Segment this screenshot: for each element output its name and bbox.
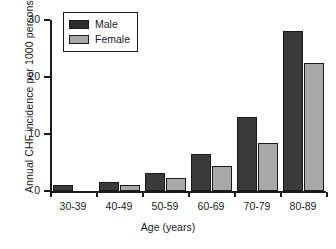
x-tick-1	[96, 192, 98, 197]
x-tick-5	[280, 192, 282, 197]
legend-label-female: Female	[95, 34, 130, 45]
y-tick-label-10: 10	[14, 128, 40, 138]
x-tick-3	[188, 192, 190, 197]
bar-male-40-49	[99, 182, 119, 191]
bar-male-60-69	[191, 154, 211, 191]
x-axis-title: Age (years)	[0, 221, 336, 233]
x-tick-label-80-89: 80-89	[273, 200, 333, 212]
legend-item-female: Female	[69, 32, 130, 47]
x-tick-0	[50, 192, 52, 197]
bar-female-40-49	[120, 185, 140, 191]
bar-female-60-69	[212, 166, 232, 191]
y-tick-label-30: 30	[14, 14, 40, 24]
chart-figure: Annual CHF incidence per 1000 persons 01…	[0, 0, 336, 249]
bar-male-70-79	[237, 117, 257, 191]
bar-female-50-59	[166, 178, 186, 191]
bar-male-50-59	[145, 173, 165, 191]
y-tick-label-20: 20	[14, 71, 40, 81]
bar-male-30-39	[53, 185, 73, 191]
legend-swatch-female-icon	[69, 35, 89, 44]
legend-label-male: Male	[95, 19, 118, 30]
bar-female-80-89	[304, 63, 324, 191]
y-axis-title: Annual CHF incidence per 1000 persons	[23, 3, 35, 193]
bar-male-80-89	[283, 31, 303, 191]
chart-legend: Male Female	[63, 12, 138, 52]
x-tick-6	[326, 192, 328, 197]
x-tick-4	[234, 192, 236, 197]
legend-swatch-male-icon	[69, 20, 89, 29]
legend-item-male: Male	[69, 17, 130, 32]
y-tick-label-0: 0	[14, 185, 40, 195]
x-tick-2	[142, 192, 144, 197]
bar-female-70-79	[258, 143, 278, 191]
